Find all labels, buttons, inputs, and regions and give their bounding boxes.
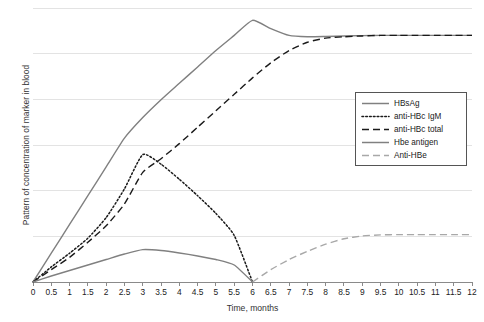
legend-item-anti-hbe: Anti-HBe	[361, 149, 461, 162]
x-tick-label: 0	[31, 287, 36, 297]
legend-line-swatch-solid-gray-2	[361, 137, 390, 148]
x-tick-label: 1.5	[82, 287, 94, 297]
x-tick-label: 12	[467, 287, 476, 297]
chart-figure: Pattern of concentration of marker in bl…	[0, 0, 484, 322]
legend-line-swatch-solid-gray	[361, 98, 390, 109]
x-tick-label: 7	[287, 287, 292, 297]
x-tick-label: 2.5	[119, 287, 131, 297]
x-axis-label: Time, months	[33, 303, 472, 313]
x-tick-label: 6	[250, 287, 255, 297]
x-tick-label: 11	[431, 287, 440, 297]
x-tick-label: 8	[323, 287, 328, 297]
x-tick-label: 10.5	[409, 287, 425, 297]
legend-label: Hbe antigen	[394, 137, 438, 148]
legend-line-swatch-dashed-black	[361, 124, 390, 135]
legend-item-hbsag: HBsAg	[361, 97, 461, 110]
chart-legend: HBsAg anti-HBc IgM anti-HBc total Hbe an…	[355, 92, 467, 166]
x-tick-label: 4.5	[192, 287, 204, 297]
x-tick-label: 3.5	[155, 287, 167, 297]
legend-label: Anti-HBe	[394, 150, 427, 161]
x-tick-label: 4	[177, 287, 182, 297]
x-tick-label: 1	[67, 287, 72, 297]
legend-line-swatch-dotted-black	[361, 111, 390, 122]
legend-item-anti-hbc-total: anti-HBc total	[361, 123, 461, 136]
legend-label: anti-HBc IgM	[394, 111, 441, 122]
x-tick-label: 9	[360, 287, 365, 297]
legend-label: anti-HBc total	[394, 124, 443, 135]
legend-item-hbe-antigen: Hbe antigen	[361, 136, 461, 149]
x-tick-label: 5	[214, 287, 219, 297]
x-tick-label: 11.5	[446, 287, 462, 297]
x-tick-label: 9.5	[375, 287, 387, 297]
x-tick-label: 3	[140, 287, 145, 297]
legend-line-swatch-dashed-lightgray	[361, 150, 390, 161]
x-tick-label: 2	[104, 287, 109, 297]
x-tick-label: 5.5	[228, 287, 240, 297]
x-tick-label: 0.5	[45, 287, 57, 297]
series-line-hbe-antigen	[33, 250, 253, 282]
x-tick-label: 8.5	[338, 287, 350, 297]
x-tick-label: 6.5	[265, 287, 277, 297]
legend-label: HBsAg	[394, 98, 419, 109]
x-tick-label: 10	[394, 287, 403, 297]
legend-item-anti-hbc-igm: anti-HBc IgM	[361, 110, 461, 123]
x-tick-label: 7.5	[302, 287, 314, 297]
series-line-anti-hbe	[253, 235, 473, 282]
